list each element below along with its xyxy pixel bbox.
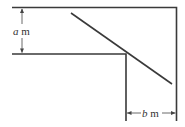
inner-corner-wall bbox=[12, 54, 126, 121]
arrow-up-icon bbox=[20, 9, 24, 14]
arrow-right-icon bbox=[171, 111, 176, 115]
dimension-a: a m bbox=[13, 9, 30, 54]
outer-wall bbox=[12, 8, 177, 122]
arrow-left-icon bbox=[127, 111, 132, 115]
ladder-line bbox=[71, 13, 172, 84]
dimension-b-label: b m bbox=[142, 107, 159, 119]
dimension-b: b m bbox=[127, 107, 176, 119]
corridor-diagram: a m b m bbox=[0, 0, 185, 127]
arrow-down-icon bbox=[20, 49, 24, 54]
dimension-a-label: a m bbox=[13, 25, 30, 37]
